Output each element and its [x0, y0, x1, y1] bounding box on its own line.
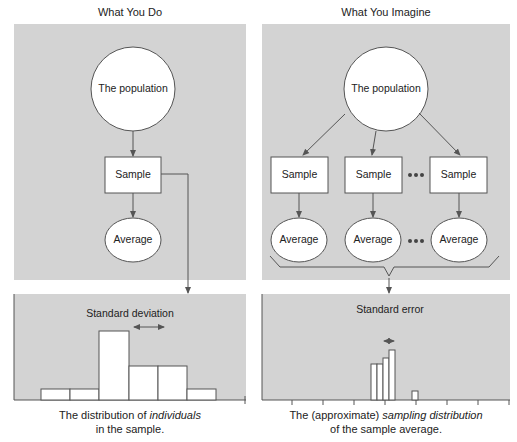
- diagram-graphics: [0, 0, 517, 442]
- right-caption-italic: sampling distribution: [382, 409, 482, 421]
- left-caption: The distribution of individuals in the s…: [14, 408, 246, 436]
- right-caption-line2: of the sample average.: [330, 423, 442, 435]
- sample-label: Sample: [345, 168, 402, 180]
- average-label: Average: [271, 233, 327, 245]
- right-population-label: The population: [344, 82, 428, 94]
- left-population-label: The population: [91, 82, 175, 94]
- sample-label: Sample: [271, 168, 328, 180]
- right-average-node-3: Average: [431, 233, 487, 247]
- right-average-node-2: Average: [345, 233, 401, 247]
- standard-deviation-label: Standard deviation: [60, 307, 200, 319]
- left-average-node: Average: [105, 233, 161, 247]
- left-caption-prefix: The distribution of: [59, 409, 150, 421]
- left-caption-line2: in the sample.: [96, 423, 164, 435]
- standard-error-label: Standard error: [320, 303, 460, 315]
- left-sample-label: Sample: [105, 168, 161, 180]
- right-sample-node-1: Sample: [271, 168, 328, 182]
- right-population-node: The population: [344, 82, 428, 96]
- left-population-label-wrap: The population: [91, 82, 175, 96]
- sample-label: Sample: [430, 168, 487, 180]
- right-average-node-1: Average: [271, 233, 327, 247]
- average-label: Average: [345, 233, 401, 245]
- right-sample-node-3: Sample: [430, 168, 487, 182]
- left-average-label: Average: [105, 233, 161, 245]
- left-caption-italic: individuals: [150, 409, 201, 421]
- left-sample-node: Sample: [105, 168, 161, 182]
- right-caption: The (approximate) sampling distribution …: [262, 408, 510, 436]
- right-sample-node-2: Sample: [345, 168, 402, 182]
- right-caption-prefix: The (approximate): [289, 409, 382, 421]
- average-label: Average: [431, 233, 487, 245]
